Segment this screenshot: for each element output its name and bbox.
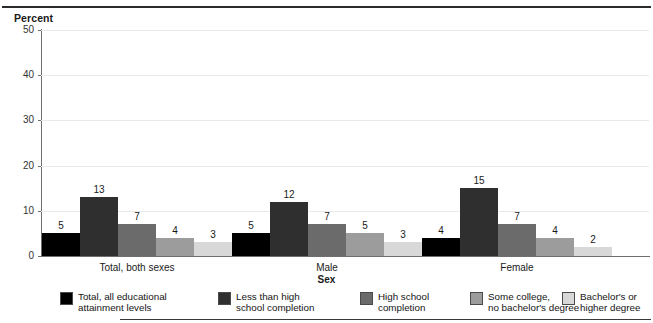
chart-legend: Total, all educational attainment levels… bbox=[0, 289, 653, 319]
gridline bbox=[41, 120, 649, 121]
x-axis-line bbox=[41, 256, 650, 257]
bar-value-label: 7 bbox=[118, 211, 156, 222]
y-axis-tick-label: 50 bbox=[0, 25, 34, 35]
x-axis-group-label: Female bbox=[422, 262, 612, 273]
y-axis-title: Percent bbox=[14, 12, 53, 24]
legend-item-label: Bachelor's or higher degree bbox=[580, 291, 640, 313]
legend-item[interactable]: Bachelor's or higher degree bbox=[562, 291, 640, 313]
bar-value-label: 2 bbox=[574, 234, 612, 245]
bar bbox=[270, 202, 308, 256]
legend-swatch-icon bbox=[562, 292, 575, 305]
bar bbox=[384, 242, 422, 256]
gridline bbox=[41, 166, 649, 167]
legend-swatch-icon bbox=[360, 292, 373, 305]
bar-value-label: 5 bbox=[346, 220, 384, 231]
bar bbox=[118, 224, 156, 256]
legend-swatch-icon bbox=[218, 292, 231, 305]
x-axis-group-label: Total, both sexes bbox=[42, 262, 232, 273]
bar bbox=[308, 224, 346, 256]
y-axis-tick-mark bbox=[38, 256, 41, 257]
y-axis-tick-label: 20 bbox=[0, 161, 34, 171]
bar bbox=[232, 233, 270, 256]
bar-value-label: 3 bbox=[194, 229, 232, 240]
bar-value-label: 5 bbox=[42, 220, 80, 231]
x-axis-title: Sex bbox=[0, 274, 653, 285]
gridline bbox=[41, 30, 649, 31]
plot-area: 513743512753415742 bbox=[41, 30, 649, 256]
legend-swatch-icon bbox=[60, 292, 73, 305]
bar-value-label: 12 bbox=[270, 189, 308, 200]
bar bbox=[194, 242, 232, 256]
legend-item[interactable]: Less than high school completion bbox=[218, 291, 314, 313]
bar-value-label: 3 bbox=[384, 229, 422, 240]
bar bbox=[346, 233, 384, 256]
bar-value-label: 4 bbox=[422, 225, 460, 236]
bar bbox=[42, 233, 80, 256]
bar bbox=[80, 197, 118, 256]
bar-value-label: 5 bbox=[232, 220, 270, 231]
bar bbox=[574, 247, 612, 256]
legend-item-label: Less than high school completion bbox=[236, 291, 314, 313]
bar-value-label: 4 bbox=[156, 225, 194, 236]
y-axis-tick-label: 10 bbox=[0, 206, 34, 216]
y-axis-tick-label: 40 bbox=[0, 70, 34, 80]
bar bbox=[156, 238, 194, 256]
legend-item-label: Total, all educational attainment levels bbox=[78, 291, 167, 313]
bar-value-label: 4 bbox=[536, 225, 574, 236]
bar bbox=[460, 188, 498, 256]
bar-value-label: 13 bbox=[80, 184, 118, 195]
legend-swatch-icon bbox=[470, 292, 483, 305]
bar bbox=[536, 238, 574, 256]
header-divider-rule bbox=[2, 6, 651, 8]
legend-item[interactable]: Total, all educational attainment levels bbox=[60, 291, 167, 313]
x-axis-group-label: Male bbox=[232, 262, 422, 273]
legend-item[interactable]: High school completion bbox=[360, 291, 429, 313]
footer-divider-rule bbox=[120, 319, 651, 320]
legend-item-label: High school completion bbox=[378, 291, 429, 313]
bar bbox=[498, 224, 536, 256]
gridline bbox=[41, 75, 649, 76]
y-axis-tick-label: 30 bbox=[0, 115, 34, 125]
bar bbox=[422, 238, 460, 256]
bar-value-label: 7 bbox=[308, 211, 346, 222]
bar-value-label: 15 bbox=[460, 175, 498, 186]
y-axis-tick-label: 0 bbox=[0, 251, 34, 261]
bar-value-label: 7 bbox=[498, 211, 536, 222]
